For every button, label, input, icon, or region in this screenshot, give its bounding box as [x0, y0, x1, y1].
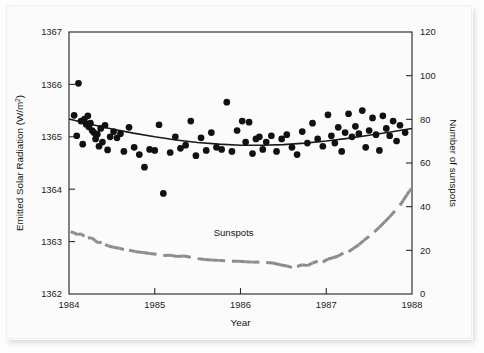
scatter-point	[160, 190, 167, 197]
scatter-point	[379, 112, 386, 119]
y2-tick-label: 40	[420, 201, 430, 212]
sunspot-segment	[98, 242, 101, 243]
sunspot-segment	[287, 266, 292, 267]
solar-radiation-sunspot-chart: 1984198519861987198813621363136413651366…	[7, 6, 473, 340]
scatter-point	[331, 140, 338, 147]
scatter-point	[314, 136, 321, 143]
sunspot-segment	[313, 261, 318, 263]
scatter-point	[104, 147, 111, 154]
scatter-point	[268, 132, 275, 139]
sunspots-label: Sunspots	[214, 227, 254, 238]
radiation-scatter-series	[71, 80, 409, 197]
sunspot-segment	[108, 246, 113, 247]
scatter-point	[256, 133, 263, 140]
scatter-point	[229, 148, 236, 155]
scatter-point	[223, 99, 230, 106]
scatter-point	[355, 130, 362, 137]
x-tick-label: 1988	[402, 299, 423, 310]
scatter-point	[141, 164, 148, 171]
scatter-point	[294, 151, 301, 158]
y2-tick-label: 0	[420, 288, 425, 299]
scatter-point	[366, 127, 373, 134]
scatter-point	[218, 146, 225, 153]
scatter-point	[73, 132, 80, 139]
scatter-point	[239, 118, 246, 125]
scatter-point	[136, 151, 143, 158]
scatter-point	[309, 120, 316, 127]
y2-tick-label: 60	[420, 157, 430, 168]
scatter-point	[369, 115, 376, 122]
scatter-point	[79, 141, 86, 148]
scatter-point	[402, 129, 409, 136]
sunspot-segment	[91, 238, 94, 241]
sunspot-segment	[119, 248, 124, 249]
scatter-point	[335, 124, 342, 131]
scatter-point	[246, 119, 253, 126]
scatter-point	[342, 129, 349, 136]
plot-frame	[69, 32, 412, 294]
scatter-point	[283, 131, 290, 138]
scatter-point	[397, 122, 404, 129]
sunspot-segment	[338, 253, 343, 256]
scatter-point	[198, 134, 205, 141]
sunspot-segment	[297, 265, 302, 267]
scatter-point	[156, 121, 163, 128]
sunspot-segment	[105, 245, 108, 246]
scatter-point	[117, 130, 124, 137]
scatter-point	[319, 143, 326, 150]
sunspot-segment	[114, 247, 119, 248]
sunspot-segment	[280, 265, 287, 266]
y-tick-label: 1363	[41, 236, 62, 247]
scatter-point	[338, 148, 345, 155]
sunspot-segment	[170, 255, 177, 256]
scatter-point	[289, 144, 296, 151]
sunspot-segment	[403, 195, 406, 200]
scatter-point	[362, 144, 369, 151]
sunspot-segment	[385, 217, 390, 222]
scatter-point	[359, 107, 366, 114]
scatter-point	[121, 148, 128, 155]
y2-tick-label: 120	[420, 26, 436, 37]
y-axis-title: Emitted Solar Radiation (W/m2)	[14, 95, 25, 231]
y-tick-label: 1365	[41, 131, 62, 142]
scatter-point	[71, 112, 78, 119]
sunspot-segment	[302, 265, 307, 266]
scatter-point	[383, 125, 390, 132]
scatter-point	[352, 123, 359, 130]
scatter-point	[299, 128, 306, 135]
sunspot-segment	[349, 248, 354, 251]
scatter-point	[131, 144, 138, 151]
scatter-point	[193, 152, 200, 159]
x-tick-label: 1984	[59, 299, 80, 310]
sunspot-segment	[136, 252, 143, 253]
scatter-point	[373, 131, 380, 138]
y2-tick-label: 80	[420, 114, 430, 125]
sunspot-segment	[409, 189, 412, 191]
scatter-point	[304, 140, 311, 147]
scatter-point	[102, 122, 109, 129]
sunspot-segment	[359, 240, 364, 244]
sunspot-segment	[71, 232, 74, 233]
axes-layer	[69, 32, 412, 294]
scatter-point	[393, 138, 400, 145]
scatter-point	[99, 139, 106, 146]
x-tick-label: 1986	[230, 299, 251, 310]
scatter-point	[349, 133, 356, 140]
y-tick-label: 1364	[41, 184, 62, 195]
x-axis-title: Year	[231, 317, 252, 328]
sunspot-segment	[328, 258, 333, 259]
scatter-point	[85, 112, 92, 119]
sunspot-segment	[143, 253, 150, 254]
scatter-point	[242, 139, 249, 146]
sunspot-segment	[74, 233, 77, 235]
figure-card: 1984198519861987198813621363136413651366…	[0, 0, 484, 353]
sunspot-segment	[407, 191, 410, 195]
scatter-point	[126, 124, 133, 131]
scatter-point	[187, 118, 194, 125]
sunspot-segment	[81, 234, 84, 237]
sunspot-segment	[95, 240, 98, 243]
sunspot-segment	[390, 211, 395, 217]
sunspot-segment	[184, 256, 191, 257]
sunspot-segment	[354, 245, 359, 248]
scatter-point	[94, 131, 101, 138]
